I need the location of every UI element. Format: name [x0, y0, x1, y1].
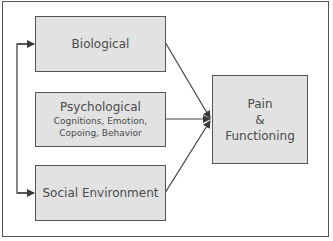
- node-psychological: Psychological Cognitions, Emotion, Copoi…: [35, 92, 166, 147]
- node-label: Functioning: [225, 128, 295, 144]
- node-label: Biological: [72, 37, 130, 52]
- node-label: &: [255, 112, 264, 128]
- node-label: Psychological: [60, 100, 141, 115]
- node-biological: Biological: [35, 16, 166, 72]
- node-label: Pain: [248, 96, 273, 112]
- node-label: Social Environment: [42, 186, 158, 201]
- node-sublabel: Copoing, Behavior: [59, 127, 142, 139]
- node-social-environment: Social Environment: [35, 165, 166, 221]
- node-pain-functioning: Pain & Functioning: [212, 75, 308, 164]
- node-sublabel: Cognitions, Emotion,: [54, 115, 147, 127]
